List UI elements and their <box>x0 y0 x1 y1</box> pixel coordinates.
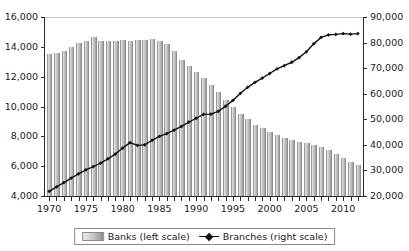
legend-item-branches: Branches (right scale) <box>199 231 328 242</box>
xtick-1990 <box>196 197 197 201</box>
ytick-left-4000 <box>41 196 45 197</box>
xtick-2008 <box>328 197 329 201</box>
xtick-2002 <box>284 197 285 201</box>
ylabel-right-70000: 70,000 <box>370 62 409 73</box>
ylabel-right-80000: 80,000 <box>370 37 409 48</box>
ylabel-left-16000: 16,000 <box>0 11 38 22</box>
branches-marker-2009 <box>334 32 338 36</box>
xlabel-1975: 1975 <box>70 203 102 214</box>
plot-area <box>44 17 363 196</box>
ylabel-right-50000: 50,000 <box>370 113 409 124</box>
ylabel-left-10000: 10,000 <box>0 101 38 112</box>
xtick-1976 <box>93 197 94 201</box>
xlabel-2000: 2000 <box>254 203 286 214</box>
branches-marker-2011 <box>349 32 353 36</box>
xtick-1972 <box>64 197 65 201</box>
ylabel-left-12000: 12,000 <box>0 71 38 82</box>
xtick-2006 <box>314 197 315 201</box>
ylabel-left-4000: 4,000 <box>0 190 38 201</box>
ytick-right-50000 <box>363 119 367 120</box>
ytick-right-30000 <box>363 170 367 171</box>
xtick-1978 <box>108 197 109 201</box>
xlabel-2010: 2010 <box>327 203 359 214</box>
xtick-1993 <box>218 197 219 201</box>
ytick-right-40000 <box>363 145 367 146</box>
ytick-left-6000 <box>41 166 45 167</box>
ylabel-right-90000: 90,000 <box>370 11 409 22</box>
xlabel-1970: 1970 <box>33 203 65 214</box>
chart-legend: Banks (left scale) Branches (right scale… <box>74 228 336 245</box>
xtick-1986 <box>167 197 168 201</box>
xtick-1983 <box>145 197 146 201</box>
xtick-2004 <box>299 197 300 201</box>
legend-label-branches: Branches (right scale) <box>223 231 328 242</box>
xtick-2012 <box>358 197 359 201</box>
ytick-left-8000 <box>41 136 45 137</box>
xtick-2009 <box>336 197 337 201</box>
bar-swatch-icon <box>82 232 104 241</box>
xtick-1975 <box>86 197 87 201</box>
xtick-1992 <box>211 197 212 201</box>
xtick-1979 <box>115 197 116 201</box>
xtick-1987 <box>174 197 175 201</box>
ytick-left-14000 <box>41 47 45 48</box>
legend-item-banks: Banks (left scale) <box>82 231 190 242</box>
xtick-1999 <box>262 197 263 201</box>
xtick-1977 <box>101 197 102 201</box>
branches-marker-1982 <box>135 144 139 148</box>
xtick-1974 <box>79 197 80 201</box>
xtick-1970 <box>49 197 50 201</box>
ytick-left-10000 <box>41 107 45 108</box>
ylabel-left-8000: 8,000 <box>0 130 38 141</box>
xtick-2000 <box>270 197 271 201</box>
xtick-1971 <box>56 197 57 201</box>
legend-label-banks: Banks (left scale) <box>108 231 190 242</box>
ytick-right-60000 <box>363 94 367 95</box>
chart-container: 4,0006,0008,00010,00012,00014,00016,0002… <box>0 0 409 251</box>
xtick-2007 <box>321 197 322 201</box>
branches-line-series <box>44 17 363 196</box>
xtick-1991 <box>204 197 205 201</box>
xtick-1989 <box>189 197 190 201</box>
branches-marker-2012 <box>356 32 360 36</box>
xtick-1985 <box>159 197 160 201</box>
branches-marker-1992 <box>209 112 213 116</box>
xlabel-1995: 1995 <box>217 203 249 214</box>
ylabel-left-6000: 6,000 <box>0 160 38 171</box>
plot-top-border <box>44 17 364 18</box>
branches-marker-2010 <box>341 32 345 36</box>
xlabel-1990: 1990 <box>180 203 212 214</box>
ytick-right-80000 <box>363 43 367 44</box>
xtick-1981 <box>130 197 131 201</box>
xtick-1997 <box>248 197 249 201</box>
xtick-1998 <box>255 197 256 201</box>
xtick-1995 <box>233 197 234 201</box>
ylabel-right-60000: 60,000 <box>370 88 409 99</box>
xtick-1994 <box>226 197 227 201</box>
xtick-1980 <box>123 197 124 201</box>
ylabel-right-30000: 30,000 <box>370 164 409 175</box>
line-marker-swatch-icon <box>199 233 219 240</box>
ytick-right-90000 <box>363 17 367 18</box>
xtick-2011 <box>351 197 352 201</box>
xtick-1982 <box>137 197 138 201</box>
ytick-left-16000 <box>41 17 45 18</box>
ylabel-left-14000: 14,000 <box>0 41 38 52</box>
xtick-2010 <box>343 197 344 201</box>
xlabel-1980: 1980 <box>107 203 139 214</box>
ytick-left-12000 <box>41 77 45 78</box>
xlabel-1985: 1985 <box>143 203 175 214</box>
branches-marker-2008 <box>327 33 331 37</box>
xtick-2003 <box>292 197 293 201</box>
ylabel-right-40000: 40,000 <box>370 139 409 150</box>
ytick-right-20000 <box>363 196 367 197</box>
ytick-right-70000 <box>363 68 367 69</box>
xtick-2001 <box>277 197 278 201</box>
xtick-1984 <box>152 197 153 201</box>
xtick-1988 <box>181 197 182 201</box>
xtick-2005 <box>306 197 307 201</box>
xtick-1996 <box>240 197 241 201</box>
xlabel-2005: 2005 <box>290 203 322 214</box>
ylabel-right-20000: 20,000 <box>370 190 409 201</box>
xtick-1973 <box>71 197 72 201</box>
